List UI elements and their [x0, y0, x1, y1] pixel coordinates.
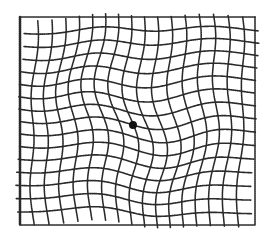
grid-line	[16, 181, 251, 193]
distorted-grid	[0, 0, 274, 238]
grid-line	[236, 17, 244, 227]
fixation-dot	[129, 121, 137, 129]
grid-line	[137, 17, 154, 227]
grid-line	[43, 20, 52, 224]
amsler-grid-figure	[0, 0, 274, 238]
grid-line	[20, 116, 256, 130]
grid-line	[16, 194, 251, 205]
grid-line	[209, 14, 220, 225]
grid-line	[19, 102, 255, 116]
grid-line	[23, 51, 258, 61]
grid-line	[24, 38, 259, 47]
grid-line	[18, 207, 252, 217]
grid-line	[122, 16, 139, 225]
grid-line	[152, 17, 168, 228]
grid-line	[24, 26, 258, 34]
grid-line	[222, 16, 231, 227]
grid-line	[20, 142, 256, 156]
grid-line	[167, 17, 181, 228]
